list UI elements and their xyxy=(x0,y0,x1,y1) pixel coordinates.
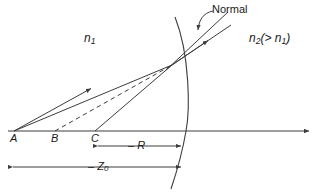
object-distance-symbol: – Z xyxy=(88,160,104,172)
surface-normal-line xyxy=(164,12,228,72)
object-distance-dimension-label: – Z0 xyxy=(88,161,108,173)
point-b-label: B xyxy=(51,133,58,144)
incident-ray-from-a xyxy=(14,65,172,131)
point-c-label: C xyxy=(91,133,99,144)
diagram-canvas xyxy=(0,0,326,192)
refracted-ray-arrowhead xyxy=(172,41,208,66)
medium-n2-compare-close: ) xyxy=(286,31,290,45)
optics-refraction-diagram: Normal n1 n2(> n1) A B C – R – Z0 xyxy=(0,0,326,192)
medium-n1-subscript: 1 xyxy=(91,36,96,46)
medium-n2-symbol: n xyxy=(249,31,256,45)
incident-ray-from-c xyxy=(95,65,172,131)
refracting-surface-arc xyxy=(171,17,188,189)
incident-ray-from-a-arrowhead xyxy=(14,89,91,132)
object-distance-subscript: 0 xyxy=(104,164,108,173)
medium-n1-label: n1 xyxy=(84,32,95,45)
medium-n1-symbol: n xyxy=(84,31,91,45)
normal-label: Normal xyxy=(212,4,247,15)
radius-dimension-label: – R xyxy=(128,140,145,151)
medium-n2-compare-symbol: n xyxy=(272,31,282,45)
normal-label-leader xyxy=(198,11,213,30)
medium-n2-compare-open: (> xyxy=(260,31,271,45)
construction-ray-from-b xyxy=(55,65,172,131)
point-a-label: A xyxy=(10,133,17,144)
medium-n2-label: n2(> n1) xyxy=(249,32,290,45)
